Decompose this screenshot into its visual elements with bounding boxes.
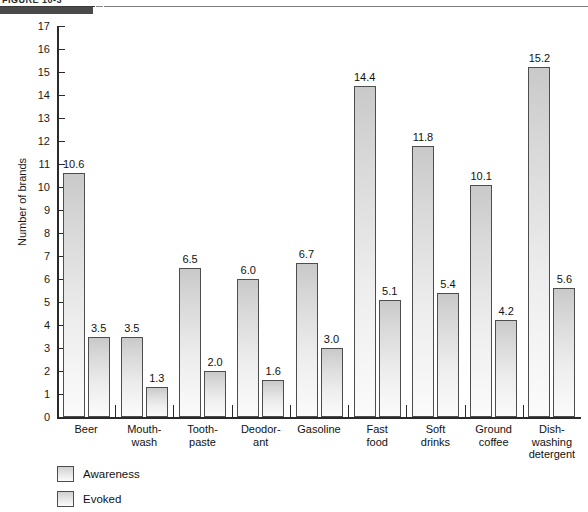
- figure-caption: FIGURE 10-3: [2, 0, 62, 3]
- y-axis-tick-label: 2: [28, 366, 50, 377]
- figure-header-strip: FIGURE 10-3: [0, 0, 588, 14]
- bar-value-label: 6.5: [173, 254, 207, 265]
- x-axis-group-separator: [115, 405, 116, 417]
- bar-value-label: 1.3: [140, 373, 174, 384]
- bar-awareness-3: [237, 279, 259, 417]
- bar-value-label: 5.1: [373, 286, 407, 297]
- x-axis-group-separator: [232, 405, 233, 417]
- bar-value-label: 6.7: [290, 249, 324, 260]
- x-axis-line: [57, 417, 581, 419]
- bar-value-label: 3.0: [315, 334, 349, 345]
- bar-awareness-8: [528, 67, 550, 417]
- y-axis-tick-label: 6: [28, 274, 50, 285]
- y-axis-tick-label: 10: [28, 182, 50, 193]
- bar-evoked-6: [437, 293, 459, 417]
- legend-swatch-evoked: [57, 491, 74, 507]
- bar-evoked-1: [146, 387, 168, 417]
- bar-awareness-7: [470, 185, 492, 417]
- legend-label: Evoked: [83, 493, 121, 506]
- y-axis-tick-label: 11: [28, 159, 50, 170]
- header-rule-block: [0, 7, 93, 14]
- bar-evoked-4: [321, 348, 343, 417]
- bar-awareness-5: [354, 86, 376, 417]
- y-axis-tick-label: 4: [28, 320, 50, 331]
- y-axis-tick-label: 14: [28, 90, 50, 101]
- y-axis-tick-label: 7: [28, 251, 50, 262]
- bar-evoked-8: [553, 288, 575, 417]
- bar-value-label: 15.2: [522, 53, 556, 64]
- y-axis-tick-label: 17: [28, 21, 50, 32]
- bar-value-label: 10.1: [464, 171, 498, 182]
- y-axis-tick-label: 5: [28, 297, 50, 308]
- y-axis-tick-label: 16: [28, 44, 50, 55]
- bar-evoked-2: [204, 371, 226, 417]
- bar-value-label: 3.5: [115, 323, 149, 334]
- y-axis-tick-label: 0: [28, 412, 50, 423]
- x-axis-group-separator: [406, 405, 407, 417]
- legend-label: Awareness: [83, 468, 140, 481]
- legend-item: Awareness: [57, 466, 257, 486]
- bar-value-label: 4.2: [489, 306, 523, 317]
- bar-value-label: 11.8: [406, 132, 440, 143]
- y-axis-tick-label: 15: [28, 67, 50, 78]
- y-axis-tick: [59, 417, 65, 418]
- x-axis-group-separator: [523, 405, 524, 417]
- bar-evoked-0: [88, 337, 110, 418]
- y-axis-tick-label: 13: [28, 113, 50, 124]
- bar-value-label: 2.0: [198, 357, 232, 368]
- y-axis-tick-label: 8: [28, 228, 50, 239]
- bar-value-label: 10.6: [57, 159, 91, 170]
- bar-value-label: 5.4: [431, 279, 465, 290]
- legend-item: Evoked: [57, 491, 257, 511]
- bar-evoked-7: [495, 320, 517, 417]
- y-axis-title: Number of brands: [16, 142, 28, 262]
- x-axis-category-label: Dish-washingdetergent: [517, 423, 587, 461]
- legend-swatch-awareness: [57, 466, 74, 482]
- bar-value-label: 5.6: [547, 274, 581, 285]
- x-axis-group-separator: [173, 405, 174, 417]
- bar-evoked-3: [262, 380, 284, 417]
- x-axis-group-separator: [465, 405, 466, 417]
- bar-awareness-0: [63, 173, 85, 417]
- bar-value-label: 6.0: [231, 265, 265, 276]
- y-axis-tick-label: 1: [28, 389, 50, 400]
- bar-evoked-5: [379, 300, 401, 417]
- header-rule-long: [104, 6, 588, 7]
- y-axis-tick-label: 9: [28, 205, 50, 216]
- y-axis-tick-label: 3: [28, 343, 50, 354]
- bar-value-label: 1.6: [256, 366, 290, 377]
- y-axis-tick-label: 12: [28, 136, 50, 147]
- bar-awareness-2: [179, 268, 201, 418]
- x-axis-group-separator: [348, 405, 349, 417]
- bar-value-label: 3.5: [82, 323, 116, 334]
- bar-value-label: 14.4: [348, 72, 382, 83]
- plot-area: 10.63.53.51.36.52.06.01.66.73.014.45.111…: [57, 26, 581, 417]
- header-rule-segment: [96, 6, 103, 7]
- x-axis-group-separator: [290, 405, 291, 417]
